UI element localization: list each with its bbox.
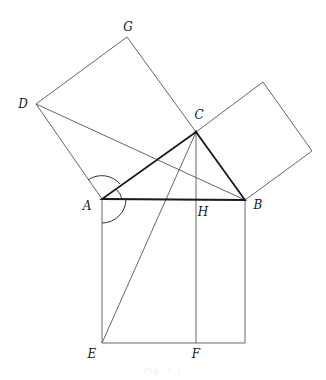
angle-arc-bae bbox=[102, 199, 126, 223]
angle-arc-cab bbox=[116, 189, 122, 199]
vertex-c-dot bbox=[195, 131, 198, 134]
label-c: C bbox=[194, 109, 203, 121]
label-d: D bbox=[18, 98, 28, 110]
figure-caption: Fig. 1.1 bbox=[143, 366, 182, 375]
label-a: A bbox=[83, 200, 92, 212]
line-ce bbox=[102, 132, 196, 343]
label-g: G bbox=[123, 21, 133, 33]
label-f: F bbox=[192, 348, 200, 360]
square-on-ac bbox=[36, 37, 196, 199]
label-e: E bbox=[88, 348, 97, 360]
square-on-bc bbox=[196, 82, 312, 200]
label-h: H bbox=[198, 206, 208, 218]
angle-arc-dac bbox=[88, 176, 120, 184]
square-on-ab bbox=[102, 199, 245, 343]
diagram-canvas bbox=[0, 0, 326, 380]
label-b: B bbox=[254, 199, 263, 211]
